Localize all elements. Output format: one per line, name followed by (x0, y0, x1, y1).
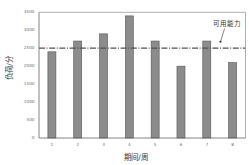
y-tick-label: 3000 (24, 27, 35, 32)
bar-period-3 (100, 34, 108, 138)
x-axis-title: 期间/周 (124, 153, 148, 162)
x-tick-label: 7 (205, 142, 208, 147)
y-tick-label: 1500 (24, 81, 35, 86)
bar-chart-figure: 050010001500200025003000350012345678 可用能… (0, 0, 249, 165)
y-tick-label: 2500 (24, 45, 35, 50)
chart-canvas: 050010001500200025003000350012345678 可用能… (0, 0, 249, 165)
x-tick-label: 2 (76, 142, 79, 147)
bar-period-7 (203, 41, 211, 138)
arrowhead-icon (219, 41, 221, 43)
y-tick-label: 3500 (24, 9, 35, 14)
annotation-label: 可用能力 (213, 19, 241, 28)
y-tick-label: 1000 (24, 99, 35, 104)
bar-period-8 (229, 63, 237, 138)
y-tick-label: 500 (27, 117, 35, 122)
y-tick-label: 2000 (24, 63, 35, 68)
x-tick-label: 5 (154, 142, 157, 147)
bar-period-5 (151, 41, 159, 138)
chart-background (0, 0, 249, 165)
x-tick-label: 1 (51, 142, 54, 147)
x-tick-label: 8 (231, 142, 234, 147)
y-tick-label: 0 (32, 135, 35, 140)
y-axis-title: 负荷/分 (4, 55, 14, 80)
bar-period-6 (177, 66, 185, 138)
bar-period-4 (125, 16, 133, 138)
bar-period-2 (74, 41, 82, 138)
bar-period-1 (48, 52, 56, 138)
x-tick-label: 4 (128, 142, 131, 147)
x-tick-label: 6 (180, 142, 183, 147)
x-tick-label: 3 (102, 142, 105, 147)
